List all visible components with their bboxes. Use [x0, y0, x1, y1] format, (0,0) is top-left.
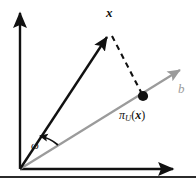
- projection-point: [138, 91, 148, 101]
- dashed-projection-line: [112, 36, 141, 92]
- projection-label: πU(x): [119, 109, 145, 123]
- projection-close-paren: ): [141, 108, 145, 122]
- subspace-arrow-b: [20, 70, 180, 169]
- bottom-caption-fragment: [0, 178, 196, 183]
- projection-figure: x b ω πU(x): [0, 0, 196, 183]
- angle-arc-omega: [40, 136, 58, 145]
- subspace-b-label: b: [178, 82, 185, 95]
- angle-omega-label: ω: [31, 140, 39, 151]
- vector-x-label: x: [106, 6, 113, 19]
- figure-canvas: [0, 0, 196, 183]
